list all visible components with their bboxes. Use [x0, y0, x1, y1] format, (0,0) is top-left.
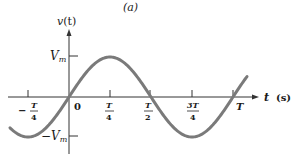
x-tick-label-half: T 2 [144, 100, 153, 122]
svg-text:T: T [106, 100, 113, 110]
y-axis-arrow-icon [67, 29, 72, 36]
x-tick-label-zero: 0 [74, 101, 81, 112]
svg-text:3T: 3T [187, 100, 200, 110]
y-axis-label: v(t) [57, 15, 76, 28]
x-tick-label-period: T [236, 101, 245, 112]
x-tick-label-quarter: T 4 [105, 100, 114, 122]
x-axis-arrow-icon [252, 95, 259, 100]
svg-text:T: T [31, 100, 38, 110]
svg-text:4: 4 [190, 112, 196, 122]
chart-title: (a) [123, 1, 138, 14]
x-tick-label-neg-quarter: − T 4 [18, 100, 38, 122]
svg-text:4: 4 [106, 112, 112, 122]
svg-text:4: 4 [31, 112, 37, 122]
svg-text:T: T [145, 100, 152, 110]
y-tick-label-vm: Vm [50, 49, 67, 64]
x-axis-unit: (s) [276, 92, 291, 103]
svg-text:2: 2 [145, 112, 151, 122]
svg-text:−: − [18, 105, 26, 116]
x-axis-label: t [264, 91, 269, 104]
sine-wave-chart: (a) v(t) t (s) Vm −Vm − T 4 0 T 4 T 2 3T… [0, 0, 298, 156]
y-tick-label-neg-vm: −Vm [41, 129, 68, 144]
x-tick-label-three-quarter: 3T 4 [187, 100, 200, 122]
